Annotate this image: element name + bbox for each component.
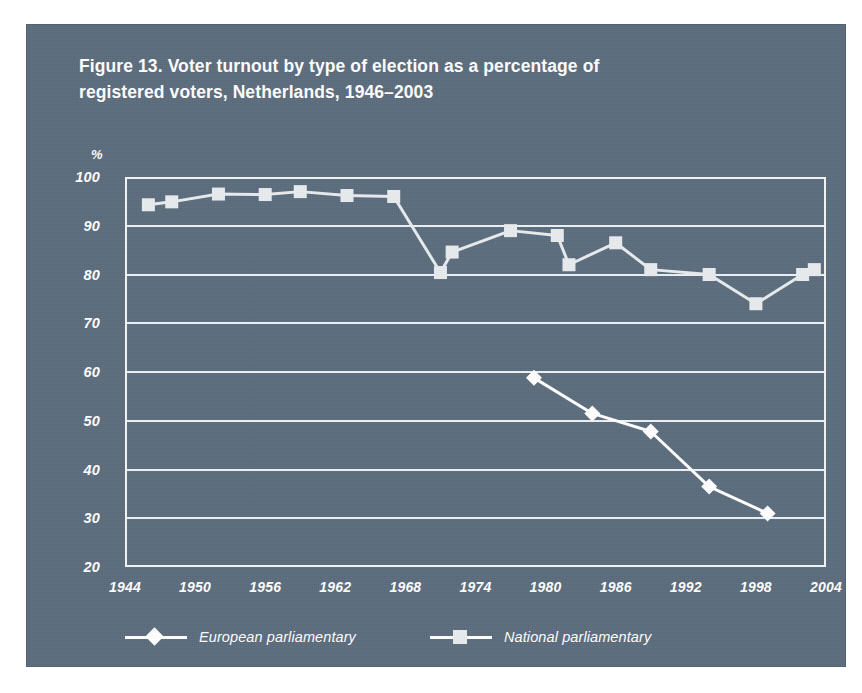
legend-item-label: National parliamentary [504,629,651,645]
data-point-diamond-marker [526,370,542,386]
data-point-square-marker [703,268,716,281]
legend-item-european-parliamentary[interactable]: European parliamentary [125,625,356,649]
x-axis-tick-label: 1968 [370,579,440,595]
figure-root: Figure 13. Voter turnout by type of elec… [0,0,862,693]
y-axis-tick-label: 100 [54,169,100,185]
data-point-square-marker [387,190,400,203]
data-point-square-marker [434,266,447,279]
data-point-square-marker [644,263,657,276]
x-axis-tick-label: 1998 [721,579,791,595]
series-line [534,378,768,514]
y-axis-tick-label: 30 [54,510,100,526]
data-point-square-marker [212,188,225,201]
data-point-square-marker [749,297,762,310]
y-axis-unit-label: % [91,147,103,162]
y-axis-tick-label: 50 [54,413,100,429]
x-axis-tick-label: 1962 [300,579,370,595]
plot-area [125,177,826,567]
x-axis-tick-label: 1986 [581,579,651,595]
legend-item-national-parliamentary[interactable]: National parliamentary [430,625,651,649]
data-point-diamond-marker [584,405,600,421]
chart-legend: European parliamentary National parliame… [125,625,825,653]
x-axis-tick-label: 1974 [441,579,511,595]
x-axis-tick-label: 2004 [791,579,861,595]
x-axis-tick-label: 1950 [160,579,230,595]
x-axis-tick-label: 1980 [511,579,581,595]
figure-panel: Figure 13. Voter turnout by type of elec… [27,25,845,666]
y-axis-tick-label: 60 [54,364,100,380]
y-axis-tick-label: 90 [54,218,100,234]
square-marker-icon [430,627,492,647]
data-point-square-marker [609,236,622,249]
data-point-diamond-marker [760,505,776,521]
series-line [148,192,814,304]
data-point-square-marker [340,189,353,202]
data-point-square-marker [808,263,821,276]
x-axis-tick-label: 1944 [90,579,160,595]
data-point-square-marker [551,229,564,242]
x-axis-tick-label: 1992 [651,579,721,595]
series-european-parliamentary [526,370,776,522]
y-axis-tick-label: 70 [54,315,100,331]
page-title: Figure 13. Voter turnout by type of elec… [79,53,679,105]
series-layer [125,177,826,567]
y-axis-tick-label: 40 [54,462,100,478]
data-point-square-marker [504,224,517,237]
x-axis-tick-label: 1956 [230,579,300,595]
data-point-square-marker [165,195,178,208]
y-axis-tick-label: 80 [54,267,100,283]
legend-item-label: European parliamentary [199,629,356,645]
data-point-square-marker [259,188,272,201]
data-point-square-marker [796,268,809,281]
data-point-square-marker [294,185,307,198]
series-national-parliamentary [142,185,821,310]
diamond-marker-icon [125,627,187,647]
y-axis-tick-label: 20 [54,559,100,575]
data-point-square-marker [446,246,459,259]
data-point-square-marker [562,258,575,271]
data-point-square-marker [142,198,155,211]
